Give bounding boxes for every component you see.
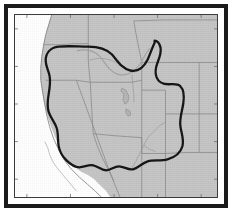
graticule-label-left-3: · [19, 107, 20, 111]
map-plot-box: · · · · · · · · · · [14, 14, 218, 198]
graticule-label-left-2: · [19, 69, 20, 73]
graticule-label-top-3: · [112, 21, 113, 25]
graticule-label-left-4: · [19, 145, 20, 149]
graticule-label-top-1: · [25, 21, 26, 25]
graticule-label-top-4: · [156, 21, 157, 25]
map-figure: · · · · · · · · · · [0, 0, 232, 212]
graticule-label-left-1: · [19, 32, 20, 36]
map-canvas: · · · · · · · · · · [15, 15, 217, 197]
graticule-label-top-2: · [68, 21, 69, 25]
graticule-label-top-5: · [199, 21, 200, 25]
graticule-label-left-5: · [19, 182, 20, 186]
